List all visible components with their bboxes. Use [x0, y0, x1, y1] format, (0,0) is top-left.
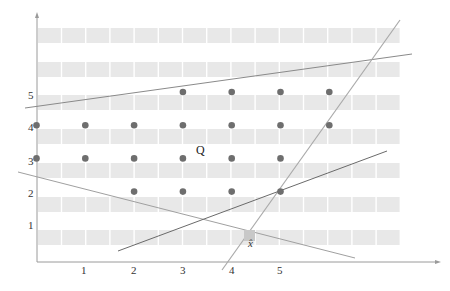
band-cell	[38, 197, 61, 212]
band-cell	[135, 129, 158, 144]
lattice-point	[180, 155, 187, 162]
band-cell	[328, 129, 351, 144]
point-label-xhat: x̂	[248, 238, 253, 249]
band-cell	[304, 163, 327, 178]
band-cell	[183, 197, 206, 212]
band-cell	[207, 62, 230, 77]
band-cell	[280, 28, 303, 43]
band-cell	[62, 230, 85, 245]
band-cell	[183, 163, 206, 178]
band-cell	[86, 95, 109, 110]
band-cell	[377, 95, 400, 110]
band-cell	[353, 95, 376, 110]
band-cell	[256, 28, 279, 43]
lattice-point	[277, 155, 284, 162]
band-cell	[256, 163, 279, 178]
background-bands	[38, 28, 400, 245]
band-cell	[62, 197, 85, 212]
y-axis-arrow-icon	[35, 12, 39, 18]
band-cell	[111, 129, 134, 144]
lattice-point	[131, 155, 138, 162]
band-cell	[377, 197, 400, 212]
band-cell	[111, 163, 134, 178]
lattice-point	[228, 89, 235, 96]
band-cell	[62, 62, 85, 77]
band-cell	[353, 230, 376, 245]
band-cell	[280, 197, 303, 212]
x-tick-5: 5	[277, 265, 283, 276]
band-cell	[86, 197, 109, 212]
band-cell	[86, 230, 109, 245]
band-cell	[377, 28, 400, 43]
band-cell	[377, 163, 400, 178]
band-cell	[183, 95, 206, 110]
lattice-point	[228, 155, 235, 162]
band-cell	[86, 28, 109, 43]
band-cell	[353, 28, 376, 43]
band-cell	[38, 163, 61, 178]
band-cell	[328, 95, 351, 110]
band-cell	[280, 129, 303, 144]
band-cell	[280, 163, 303, 178]
band-cell	[377, 62, 400, 77]
band-cell	[111, 95, 134, 110]
band-cell	[207, 197, 230, 212]
band-cell	[62, 163, 85, 178]
lattice-point	[131, 188, 138, 195]
band-cell	[135, 95, 158, 110]
x-tick-3: 3	[180, 265, 186, 276]
band-cell	[135, 163, 158, 178]
band-cell	[328, 28, 351, 43]
band-cell	[86, 62, 109, 77]
band-cell	[328, 230, 351, 245]
band-cell	[135, 28, 158, 43]
band-cell	[280, 230, 303, 245]
y-tick-5: 5	[28, 90, 34, 101]
band-cell	[328, 197, 351, 212]
lattice-point	[33, 122, 40, 129]
band-cell	[111, 62, 134, 77]
band-cell	[62, 129, 85, 144]
band-cell	[207, 95, 230, 110]
constraint-line-descending	[18, 172, 355, 258]
lattice-point	[180, 122, 187, 129]
lattice-point	[326, 122, 333, 129]
band-cell	[232, 163, 255, 178]
band-cell	[353, 197, 376, 212]
x-tick-4: 4	[229, 265, 235, 276]
band-cell	[232, 95, 255, 110]
band-cell	[86, 129, 109, 144]
y-tick-2: 2	[28, 188, 34, 199]
lattice-point	[131, 122, 138, 129]
x-tick-2: 2	[131, 265, 137, 276]
band-cell	[183, 129, 206, 144]
band-cell	[38, 62, 61, 77]
band-cell	[304, 95, 327, 110]
band-cell	[256, 95, 279, 110]
band-cell	[304, 197, 327, 212]
band-cell	[256, 129, 279, 144]
band-cell	[159, 129, 182, 144]
band-cell	[353, 129, 376, 144]
band-cell	[111, 230, 134, 245]
x-tick-1: 1	[81, 265, 87, 276]
band-cell	[207, 230, 230, 245]
band-cell	[111, 28, 134, 43]
band-cell	[38, 28, 61, 43]
x-axis-arrow-icon	[435, 260, 441, 264]
band-cell	[38, 129, 61, 144]
band-cell	[377, 230, 400, 245]
y-tick-1: 1	[28, 220, 34, 231]
band-cell	[183, 28, 206, 43]
band-cell	[159, 230, 182, 245]
band-cell	[183, 62, 206, 77]
lattice-point	[82, 122, 89, 129]
band-cell	[207, 129, 230, 144]
band-cell	[111, 197, 134, 212]
y-tick-3: 3	[28, 156, 34, 167]
band-cell	[304, 62, 327, 77]
band-cell	[86, 163, 109, 178]
lattice-point	[180, 188, 187, 195]
band-cell	[183, 230, 206, 245]
band-cell	[232, 129, 255, 144]
